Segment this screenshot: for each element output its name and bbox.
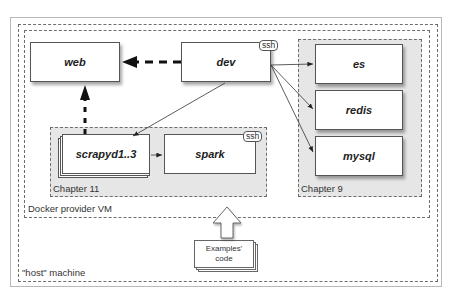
- edge-scrapyd-to-web: [80, 85, 90, 134]
- block-arrow-up-icon: [213, 207, 241, 238]
- edge-dev-to-mysql: [271, 65, 313, 152]
- edge-dev-to-scrapyd: [133, 83, 225, 136]
- edges-layer: [0, 0, 453, 301]
- edge-dev-to-web: [122, 56, 181, 68]
- edge-dev-to-es: [271, 64, 313, 65]
- edge-dev-to-redis: [271, 65, 313, 109]
